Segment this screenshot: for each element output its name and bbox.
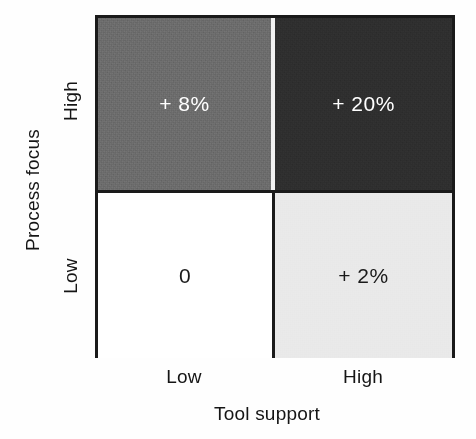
quadrant-low-focus-high-support: + 2% [275, 190, 452, 358]
quadrant-low-focus-low-support: 0 [98, 190, 275, 358]
plot-area: + 8% + 20% 0 + 2% [95, 15, 455, 358]
quadrant-high-focus-high-support: + 20% [275, 18, 452, 190]
y-axis-tick-low: Low [60, 258, 82, 293]
x-axis-title: Tool support [214, 403, 320, 425]
y-axis-tick-high: High [60, 81, 82, 121]
quadrant-high-focus-low-support: + 8% [98, 18, 275, 190]
quadrant-value-label: + 2% [338, 264, 388, 288]
y-axis-title: Process focus [22, 129, 44, 251]
quadrant-value-label: + 20% [332, 92, 395, 116]
x-axis-tick-low: Low [166, 366, 201, 388]
quadrant-matrix-figure: Process focus High Low + 8% + 20% 0 + 2%… [0, 0, 476, 439]
quadrant-value-label: 0 [179, 264, 191, 288]
quadrant-value-label: + 8% [159, 92, 209, 116]
x-axis-tick-high: High [343, 366, 383, 388]
